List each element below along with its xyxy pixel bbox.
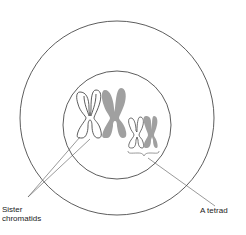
outline-chromosome-large <box>77 90 102 138</box>
sister-leader-line-1 <box>28 137 80 197</box>
tetrad-leader-line <box>148 158 215 206</box>
outline-chromosome-small <box>129 117 144 148</box>
tetrad-brace <box>128 151 159 156</box>
sister-leader-line-2 <box>28 139 90 197</box>
shaded-chromosome-small <box>144 116 158 148</box>
sister-label-line2: chromatids <box>2 214 41 223</box>
cell-diagram <box>0 0 246 235</box>
tetrad-label: A tetrad <box>200 206 228 215</box>
shaded-chromosome-large <box>102 88 126 138</box>
sister-chromatids-label: Sister chromatids <box>2 205 41 223</box>
sister-label-line1: Sister <box>2 205 41 214</box>
